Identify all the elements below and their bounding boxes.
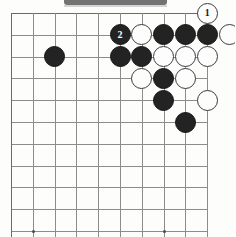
move-number-label: 2 [118, 30, 123, 40]
stone-white[interactable] [131, 24, 152, 45]
stone-black[interactable] [131, 46, 152, 67]
stone-white[interactable] [175, 46, 196, 67]
stone-white[interactable] [197, 90, 218, 111]
grid-line-vertical [76, 13, 77, 237]
stone-black-move-2[interactable]: 2 [110, 24, 131, 45]
grid-line-horizontal [11, 144, 207, 145]
grid-line-vertical [11, 13, 12, 237]
grid-line-horizontal [11, 166, 207, 167]
stone-white-move-1[interactable]: 1 [197, 3, 218, 24]
stone-white[interactable] [197, 46, 218, 67]
grid-line-horizontal [11, 209, 207, 210]
stone-white[interactable] [175, 68, 196, 89]
move-number-label: 1 [205, 8, 210, 18]
stone-black[interactable] [110, 46, 131, 67]
grid-line-horizontal [11, 100, 207, 101]
star-point [32, 230, 35, 233]
stone-white[interactable] [219, 24, 236, 45]
star-point [163, 230, 166, 233]
grid-line-vertical [33, 13, 34, 237]
grid-line-vertical [98, 13, 99, 237]
stone-black[interactable] [44, 46, 65, 67]
stone-black[interactable] [153, 24, 174, 45]
stone-black[interactable] [153, 90, 174, 111]
stone-black[interactable] [197, 24, 218, 45]
stone-white[interactable] [153, 46, 174, 67]
grid-line-horizontal [11, 187, 207, 188]
go-diagram-screenshot: 21 [0, 0, 235, 237]
grid-line-horizontal [11, 231, 207, 232]
go-board[interactable]: 21 [0, 0, 235, 237]
stone-white[interactable] [131, 68, 152, 89]
stone-black[interactable] [175, 112, 196, 133]
stone-black[interactable] [175, 24, 196, 45]
grid-line-horizontal [11, 13, 207, 14]
stone-black[interactable] [153, 68, 174, 89]
